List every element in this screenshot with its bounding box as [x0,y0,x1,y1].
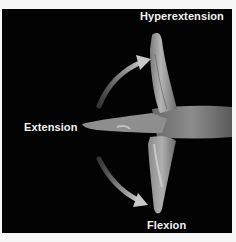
hand-flexion [148,136,176,213]
figure-frame: Hyperextension Extension Flexion [2,9,232,233]
hand-extension [82,113,167,133]
arrow-up-curved-icon [99,55,151,106]
arrow-down-curved-icon [99,159,148,207]
label-hyperextension: Hyperextension [140,10,224,22]
label-extension: Extension [24,121,77,133]
label-flexion: Flexion [147,219,186,231]
hand-hyperextension [150,33,177,113]
